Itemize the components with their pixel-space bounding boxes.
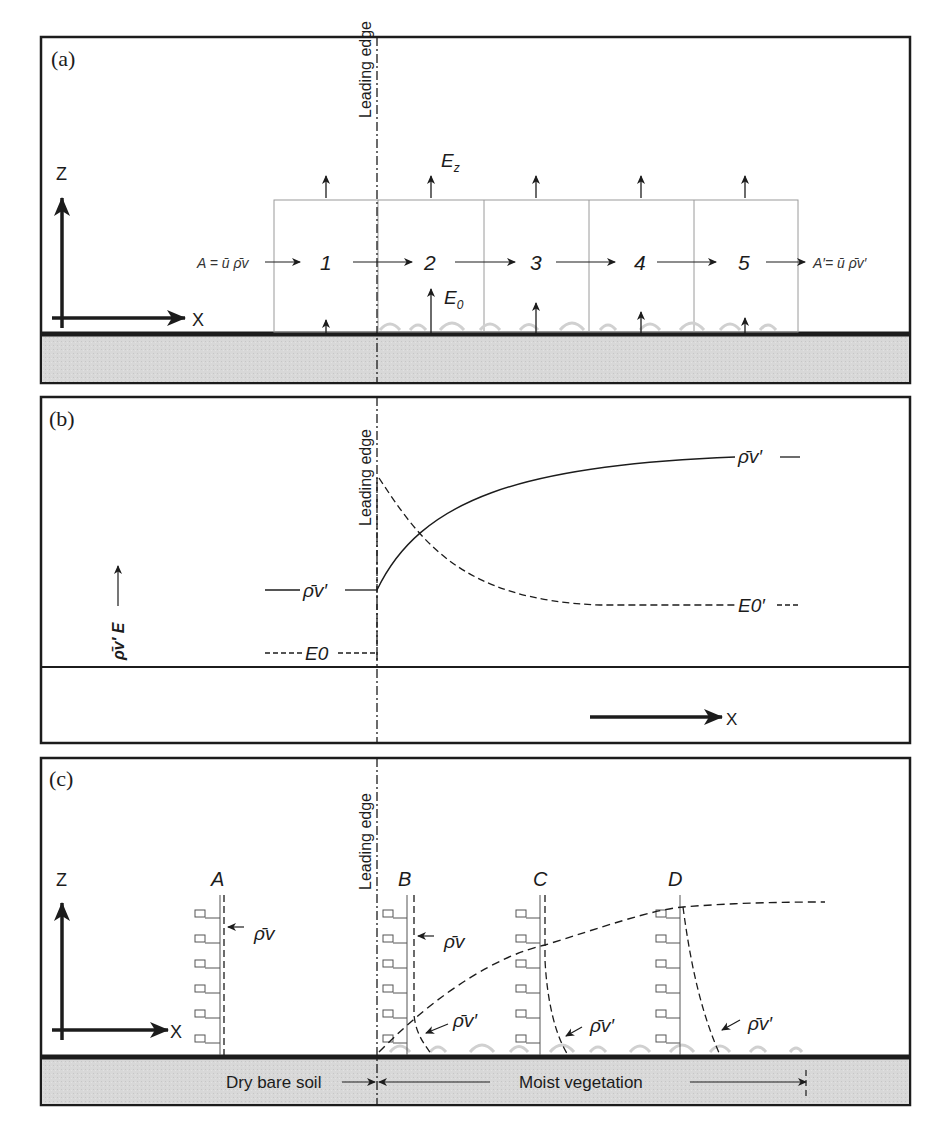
profile-b-annotation-rho-prime: ρ̄v′ <box>452 1010 478 1031</box>
soil-layer <box>42 336 909 382</box>
downstream-rho-label: ρ̄v′ <box>737 446 763 467</box>
cell-2: 2 <box>423 251 436 274</box>
cell-3: 3 <box>530 251 542 274</box>
downstream-e-label: E0′ <box>738 595 766 616</box>
z-axis-label: Z <box>56 164 67 184</box>
profile-d-annotation: ρ̄v′ <box>747 1013 773 1034</box>
profile-b-annotation-rho: ρ̄v <box>443 931 466 952</box>
figure-canvas: (a) Z X Leading edge <box>0 0 945 1135</box>
panel-b-frame <box>41 397 910 743</box>
panel-label: (b) <box>49 406 75 431</box>
dry-bare-soil-label: Dry bare soil <box>226 1073 321 1092</box>
leading-edge-label: Leading edge <box>357 429 374 526</box>
profile-a-label: A <box>210 868 224 890</box>
cell-4: 4 <box>634 251 646 274</box>
panel-label: (a) <box>51 46 75 71</box>
profile-b-label: B <box>398 868 411 890</box>
profile-c-annotation: ρ̄v′ <box>589 1015 615 1036</box>
profile-d-label: D <box>668 868 682 890</box>
panel-b: (b) Leading edge ρ̄v′ E ρ̄v′ E0 ρ̄v′ E0′… <box>41 397 910 743</box>
panel-c: (c) Leading edge Z X A ρ̄v <box>41 758 910 1105</box>
cell-1: 1 <box>320 251 332 274</box>
profile-a-annotation: ρ̄v <box>253 923 276 944</box>
inflow-label: A = ū ρ̄v <box>196 255 249 271</box>
panel-a-frame <box>41 37 910 383</box>
x-axis-label: X <box>192 310 204 330</box>
moist-vegetation-label: Moist vegetation <box>519 1073 643 1092</box>
profile-c-label: C <box>533 868 548 890</box>
y-axis-label: ρ̄v′ E <box>110 621 127 661</box>
panel-c-frame <box>41 758 910 1105</box>
upstream-e-label: E0 <box>305 643 329 664</box>
x-axis-label: X <box>726 710 737 729</box>
panel-label: (c) <box>49 766 73 791</box>
leading-edge-label: Leading edge <box>357 793 374 890</box>
z-axis-label: Z <box>56 870 67 890</box>
x-axis-label: X <box>170 1022 182 1042</box>
upstream-rho-label: ρ̄v′ <box>302 580 328 601</box>
panel-a: (a) Z X Leading edge <box>41 21 910 383</box>
cell-5: 5 <box>738 251 750 274</box>
outflow-label: A′= ū ρ̄v′ <box>812 255 868 271</box>
leading-edge-label: Leading edge <box>357 21 374 118</box>
